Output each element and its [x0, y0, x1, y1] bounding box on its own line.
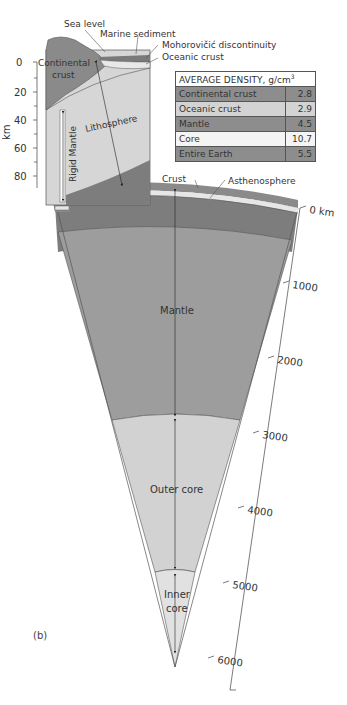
depth-tick-0: 0 km	[309, 204, 335, 218]
depth-tick-4000: 4000	[247, 504, 274, 518]
label-outer-core: Outer core	[150, 484, 203, 495]
label-sea-level: Sea level	[64, 19, 105, 29]
label-inner-core-2: core	[166, 603, 188, 614]
inset-tick-80: 80	[14, 171, 27, 182]
table-row: Entire Earth5.5	[176, 147, 315, 161]
depth-tick-2000: 2000	[277, 354, 304, 368]
label-mantle: Mantle	[160, 305, 194, 316]
table-row: Continental crust2.8	[176, 87, 315, 102]
inset-tick-0: 0	[16, 57, 22, 68]
label-continental-crust-2: crust	[52, 70, 75, 80]
depth-tick-3000: 3000	[262, 429, 289, 443]
density-table-header: AVERAGE DENSITY, g/cm3	[176, 72, 315, 87]
label-crust: Crust	[162, 174, 186, 184]
inset-tick-60: 60	[14, 143, 27, 154]
table-row: Core10.7	[176, 132, 315, 147]
label-moho: Mohorovičić discontinuity	[162, 40, 277, 50]
depth-tick-5000: 5000	[232, 579, 259, 593]
label-asthenosphere: Asthenosphere	[228, 176, 296, 186]
table-row: Mantle4.5	[176, 117, 315, 132]
inset-tick-40: 40	[14, 115, 27, 126]
inset-tick-20: 20	[14, 87, 27, 98]
depth-tick-1000: 1000	[292, 279, 319, 293]
label-oceanic-crust: Oceanic crust	[162, 52, 224, 62]
label-inner-core-1: Inner	[164, 589, 191, 600]
depth-tick-6000: 6000	[217, 654, 244, 668]
label-rigid-mantle: Rigid Mantle	[68, 125, 78, 182]
label-marine-sediment: Marine sediment	[100, 29, 176, 39]
label-continental-crust-1: Continental	[38, 58, 90, 68]
table-row: Oceanic crust2.9	[176, 102, 315, 117]
panel-label: (b)	[33, 630, 47, 641]
inset-axis-unit: km	[1, 124, 12, 140]
density-table: AVERAGE DENSITY, g/cm3 Continental crust…	[175, 71, 316, 162]
